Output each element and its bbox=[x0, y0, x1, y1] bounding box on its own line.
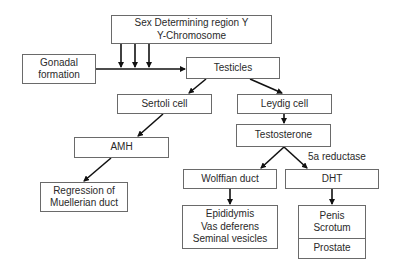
edge-label-5a-reductase: 5a reductase bbox=[308, 151, 366, 162]
node-gonadal-line-1: Gonadal bbox=[40, 57, 78, 70]
node-gonadal-line-2: formation bbox=[38, 69, 80, 82]
node-amh-label: AMH bbox=[110, 141, 132, 154]
node-dht: DHT bbox=[285, 169, 379, 189]
node-regression-line-1: Regression of bbox=[53, 185, 115, 198]
node-dht-derivative-2: Scrotum bbox=[299, 222, 365, 235]
node-dht-derivatives: Penis Scrotum Prostate bbox=[298, 205, 366, 259]
node-testicles-label: Testicles bbox=[214, 62, 252, 75]
node-dht-derivatives-bottom: Prostate bbox=[299, 238, 365, 258]
node-leydig-cell: Leydig cell bbox=[237, 94, 332, 114]
node-wolffian-derivatives: Epididymis Vas deferens Seminal vesicles bbox=[182, 205, 278, 249]
node-sry: Sex Determining region Y Y-Chromosome bbox=[111, 15, 272, 44]
node-sertoli-label: Sertoli cell bbox=[141, 98, 187, 111]
node-testicles: Testicles bbox=[186, 57, 280, 79]
node-regression-mullerian: Regression of Muellerian duct bbox=[40, 182, 128, 212]
node-wolffian-derivative-1: Epididymis bbox=[206, 208, 254, 221]
node-wolffian-duct: Wolffian duct bbox=[183, 169, 277, 189]
node-dht-derivative-prostate: Prostate bbox=[313, 242, 350, 255]
node-sertoli-cell: Sertoli cell bbox=[117, 94, 212, 114]
node-amh: AMH bbox=[74, 137, 169, 158]
node-leydig-label: Leydig cell bbox=[261, 98, 308, 111]
node-wolffian-label: Wolffian duct bbox=[201, 173, 258, 186]
node-testosterone: Testosterone bbox=[236, 124, 331, 147]
node-gonadal-formation: Gonadal formation bbox=[22, 54, 96, 84]
node-dht-label: DHT bbox=[322, 173, 343, 186]
node-regression-line-2: Muellerian duct bbox=[50, 197, 118, 210]
node-dht-derivative-1: Penis bbox=[299, 210, 365, 223]
node-wolffian-derivative-2: Vas deferens bbox=[201, 221, 259, 234]
node-dht-derivatives-top: Penis Scrotum bbox=[299, 206, 365, 238]
node-testosterone-label: Testosterone bbox=[255, 129, 312, 142]
node-sry-line-1: Sex Determining region Y bbox=[135, 17, 249, 30]
node-wolffian-derivative-3: Seminal vesicles bbox=[193, 233, 267, 246]
node-sry-line-2: Y-Chromosome bbox=[157, 30, 226, 43]
